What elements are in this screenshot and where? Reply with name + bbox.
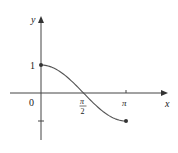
x-tick-label-pi-over-2-den: 2 [81, 107, 85, 116]
x-axis-label: x [164, 98, 170, 109]
x-axis-arrow-icon [161, 90, 168, 96]
x-tick-label-pi-over-2-num: π [80, 97, 85, 106]
start-point [39, 63, 43, 67]
x-tick-label-pi: π [122, 98, 127, 108]
y-axis-label: y [30, 14, 36, 25]
y-axis-arrow-icon [38, 16, 44, 23]
graph: y x 0 1 π 2 π [0, 0, 178, 153]
y-tick-label-1: 1 [30, 60, 35, 71]
origin-label: 0 [29, 97, 34, 108]
end-point [124, 119, 128, 123]
